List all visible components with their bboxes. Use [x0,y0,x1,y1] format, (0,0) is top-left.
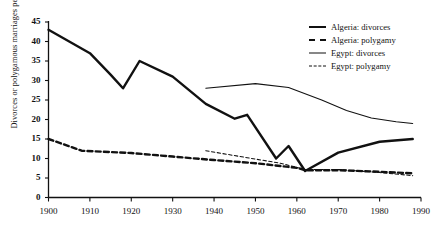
x-tick-label: 1970 [321,206,355,216]
x-tick-label: 1950 [238,206,272,216]
x-tick-label: 1960 [280,206,314,216]
x-tick-label: 1980 [363,206,397,216]
legend-item: Egypt: polygamy [309,59,441,72]
y-tick-label: 10 [19,153,41,163]
x-tick-label: 1900 [32,206,66,216]
y-tick-label: 20 [19,114,41,124]
x-tick-label: 1940 [197,206,231,216]
legend-line-swatch-icon [309,48,326,57]
y-tick-label: 25 [19,94,41,104]
legend-item: Algeria: polygamy [309,33,441,46]
chart-container: Divorces or polygamous marriages per 100… [0,0,442,243]
legend-item-label: Egypt: polygamy [331,61,390,71]
legend-item: Algeria: divorces [309,20,441,33]
y-tick-label: 40 [19,36,41,46]
x-tick-label: 1930 [156,206,190,216]
x-tick-label: 1910 [73,206,107,216]
legend-line-swatch-icon [309,35,326,44]
chart-legend: Algeria: divorcesAlgeria: polygamyEgypt:… [309,20,441,72]
y-tick-label: 0 [19,192,41,202]
legend-line-swatch-icon [309,22,326,31]
y-tick-label: 5 [19,172,41,182]
legend-item-label: Algeria: polygamy [331,35,396,45]
legend-item: Egypt: divorces [309,46,441,59]
x-tick-label: 1920 [114,206,148,216]
y-tick-label: 30 [19,75,41,85]
x-tick-label: 1990 [404,206,438,216]
series-line [49,139,413,173]
y-tick-label: 15 [19,133,41,143]
legend-item-label: Egypt: divorces [331,48,385,58]
legend-line-swatch-icon [309,61,326,70]
y-tick-label: 45 [19,16,41,26]
legend-item-label: Algeria: divorces [331,22,390,32]
y-tick-label: 35 [19,55,41,65]
